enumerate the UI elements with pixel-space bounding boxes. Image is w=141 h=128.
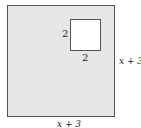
inner-left-label: 2 [62,29,68,39]
outer-bottom-label: x + 3 [57,119,81,128]
inner-bottom-label: 2 [82,53,88,63]
outer-right-label: x + 3 [119,56,141,66]
inner-square-cutout [70,19,101,51]
